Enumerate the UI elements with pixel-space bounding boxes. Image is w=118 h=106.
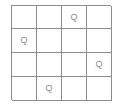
queens-board: Q Q Q Q <box>11 5 111 100</box>
board-cell-queen[interactable]: Q <box>87 53 112 77</box>
board-cell[interactable] <box>62 77 87 101</box>
board-cell[interactable] <box>87 6 112 29</box>
board-cell[interactable] <box>12 6 37 29</box>
board-cell[interactable] <box>12 77 37 101</box>
board-cell[interactable] <box>37 53 62 77</box>
board-cell-queen[interactable]: Q <box>37 77 62 101</box>
board-cell[interactable] <box>62 29 87 53</box>
board-cell[interactable] <box>87 77 112 101</box>
board-cell-queen[interactable]: Q <box>12 29 37 53</box>
board-cell[interactable] <box>37 6 62 29</box>
board-cell-queen[interactable]: Q <box>62 6 87 29</box>
board-cell[interactable] <box>87 29 112 53</box>
board-cell[interactable] <box>37 29 62 53</box>
board-cell[interactable] <box>62 53 87 77</box>
board-cell[interactable] <box>12 53 37 77</box>
